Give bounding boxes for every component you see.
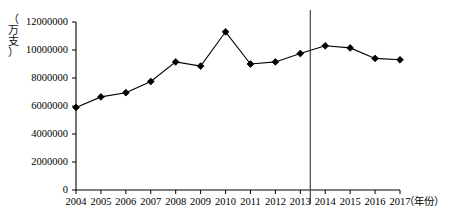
plot-area (0, 0, 462, 215)
data-point-marker (272, 59, 279, 66)
data-series (76, 32, 400, 108)
line-chart: （ 万 支 ） 02000000400000060000008000000100… (0, 0, 462, 215)
data-point-marker (297, 50, 304, 57)
data-point-marker (372, 55, 379, 62)
data-point-marker (122, 89, 129, 96)
data-point-marker (98, 94, 105, 101)
x-axis-ticks (76, 190, 400, 194)
x-axis-title: （年份） (404, 196, 444, 207)
data-markers (73, 28, 404, 110)
data-point-marker (397, 56, 404, 63)
series-line (76, 32, 400, 108)
data-point-marker (322, 42, 329, 49)
data-point-marker (347, 45, 354, 52)
data-point-marker (73, 104, 80, 111)
